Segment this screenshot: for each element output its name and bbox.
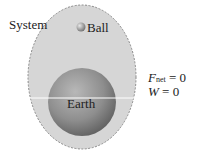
fnet-equation: Fnet = 0: [148, 71, 186, 84]
system-label: System: [9, 18, 47, 31]
fnet-subscript: net: [156, 75, 166, 84]
w-equation: W = 0: [148, 85, 179, 98]
earth-label: Earth: [67, 97, 95, 110]
fnet-symbol: F: [148, 70, 156, 85]
ball-label: Ball: [87, 21, 109, 34]
ball-icon: [77, 23, 86, 32]
w-value: = 0: [159, 84, 179, 99]
fnet-value: = 0: [166, 70, 186, 85]
w-symbol: W: [148, 84, 159, 99]
